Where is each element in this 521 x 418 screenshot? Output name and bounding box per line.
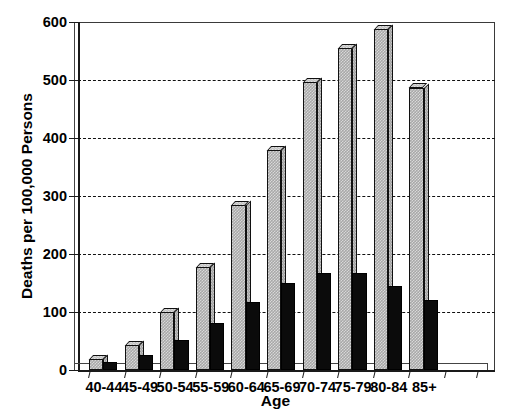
x-tick-mark-65-69: [266, 370, 269, 378]
bar-front-face: [338, 48, 352, 370]
gridline-300: [78, 196, 495, 197]
bar-front-face: [103, 362, 117, 370]
bar-front-face: [352, 273, 366, 370]
bar-front-face: [196, 267, 210, 370]
x-axis-title: Age: [0, 392, 521, 410]
y-tick-mark-600: [69, 22, 78, 23]
bar-front-face: [139, 355, 153, 370]
bar-front-face: [210, 323, 224, 370]
x-tick-mark-far-right: [476, 370, 479, 378]
bar-light-70-74: [303, 82, 317, 370]
bar-chart-figure: Deaths per 100,000 Persons 0100200300400…: [0, 0, 521, 418]
bar-front-face: [281, 283, 295, 370]
x-tick-mark-end: [444, 370, 447, 378]
y-tick-mark-400: [69, 138, 78, 139]
y-tick-label-500: 500: [43, 73, 67, 88]
bar-front-face: [231, 205, 245, 370]
bar-light-85+: [409, 88, 423, 370]
bar-front-face: [409, 88, 423, 370]
bar-light-60-64: [231, 205, 245, 370]
x-axis-line: [78, 370, 495, 372]
bar-front-face: [374, 29, 388, 370]
y-axis-title-text: Deaths per 100,000 Persons: [18, 93, 36, 299]
bar-front-face: [125, 345, 139, 370]
bar-dark-45-49: [139, 355, 153, 370]
bar-dark-40-44: [103, 362, 117, 370]
bar-light-80-84: [374, 29, 388, 370]
bar-dark-50-54: [174, 340, 188, 370]
bar-dark-80-84: [388, 286, 402, 370]
y-tick-label-600: 600: [43, 15, 67, 30]
y-tick-mark-100: [69, 312, 78, 313]
y-axis-back-line: [74, 22, 75, 366]
y-tick-mark-300: [69, 196, 78, 197]
bar-light-45-49: [125, 345, 139, 370]
y-tick-label-100: 100: [43, 305, 67, 320]
bar-front-face: [174, 340, 188, 370]
y-tick-label-300: 300: [43, 189, 67, 204]
bar-front-face: [160, 312, 174, 370]
y-tick-label-0: 0: [59, 363, 67, 378]
gridline-500: [78, 80, 495, 81]
bar-top-face: [303, 78, 321, 83]
bar-light-75-79: [338, 48, 352, 370]
bar-front-face: [388, 286, 402, 370]
bar-light-50-54: [160, 312, 174, 370]
bar-dark-55-59: [210, 323, 224, 370]
gridline-400: [78, 138, 495, 139]
y-tick-label-200: 200: [43, 247, 67, 262]
bar-light-40-44: [89, 359, 103, 370]
bar-front-face: [424, 300, 438, 370]
y-tick-label-400: 400: [43, 131, 67, 146]
plot-area: 0100200300400500600 40-4445-4950-5455-59…: [78, 22, 495, 370]
bar-light-55-59: [196, 267, 210, 370]
y-tick-mark-200: [69, 254, 78, 255]
bar-dark-75-79: [352, 273, 366, 370]
bar-front-face: [317, 273, 331, 370]
bar-front-face: [246, 302, 260, 370]
bar-front-face: [89, 359, 103, 370]
bar-dark-70-74: [317, 273, 331, 370]
x-tick-mark-40-44: [88, 370, 91, 378]
y-tick-mark-500: [69, 80, 78, 81]
bar-light-65-69: [267, 150, 281, 370]
bar-dark-65-69: [281, 283, 295, 370]
bar-front-face: [267, 150, 281, 370]
bar-dark-60-64: [246, 302, 260, 370]
bar-dark-85+: [424, 300, 438, 370]
y-axis-title: Deaths per 100,000 Persons: [12, 22, 42, 370]
y-tick-mark-0: [69, 370, 78, 371]
gridline-200: [78, 254, 495, 255]
plot-frame-top: [78, 22, 495, 23]
bar-front-face: [303, 82, 317, 370]
